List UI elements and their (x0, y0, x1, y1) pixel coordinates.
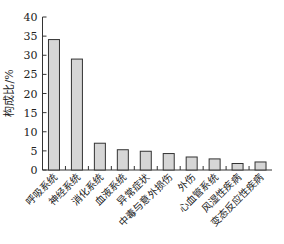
y-axis: 0510152025303540 (24, 11, 47, 177)
y-tick-label: 25 (24, 68, 38, 81)
y-axis-label: 构成比/% (2, 69, 16, 116)
y-tick-label: 20 (24, 88, 38, 101)
bar (140, 151, 151, 170)
bar (48, 40, 59, 170)
bar (71, 59, 82, 170)
y-tick-label: 40 (24, 11, 38, 24)
bar (163, 154, 174, 170)
y-tick-label: 15 (24, 107, 38, 120)
y-tick-label: 35 (24, 30, 38, 43)
bar (94, 143, 105, 170)
bar (209, 159, 220, 170)
bar (232, 163, 243, 170)
bar (186, 157, 197, 170)
bar (255, 162, 266, 170)
y-tick-label: 10 (24, 126, 38, 139)
y-tick-label: 30 (24, 49, 38, 62)
y-tick-label: 0 (31, 164, 38, 177)
y-tick-label: 5 (31, 145, 38, 158)
bar-chart: 0510152025303540 呼吸系统神经系统消化系统血液系统异常症状中毒与… (0, 0, 284, 244)
bars (48, 40, 266, 170)
x-tick-labels: 呼吸系统神经系统消化系统血液系统异常症状中毒与意外损伤外伤心血管系统风湿性疾病变… (23, 171, 266, 229)
bar (117, 150, 128, 170)
